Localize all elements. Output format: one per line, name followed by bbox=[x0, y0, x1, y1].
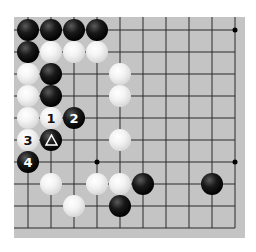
black-stone bbox=[201, 173, 223, 195]
black-stone: 4 bbox=[17, 151, 39, 173]
white-stone bbox=[109, 85, 131, 107]
black-stone: 2 bbox=[63, 107, 85, 129]
white-stone bbox=[63, 41, 85, 63]
white-stone bbox=[17, 63, 39, 85]
black-stone bbox=[40, 63, 62, 85]
black-stone bbox=[109, 195, 131, 217]
black-stone bbox=[17, 41, 39, 63]
white-stone bbox=[86, 173, 108, 195]
white-stone bbox=[17, 107, 39, 129]
move-number: 3 bbox=[23, 133, 32, 148]
move-number: 4 bbox=[23, 155, 32, 170]
black-stone bbox=[40, 85, 62, 107]
white-stone bbox=[109, 173, 131, 195]
white-stone bbox=[63, 195, 85, 217]
white-stone: 3 bbox=[17, 129, 39, 151]
black-stone bbox=[63, 19, 85, 41]
black-stone bbox=[40, 129, 62, 151]
black-stone bbox=[132, 173, 154, 195]
black-stone bbox=[17, 19, 39, 41]
white-stone bbox=[40, 41, 62, 63]
white-stone bbox=[40, 173, 62, 195]
star-point bbox=[233, 28, 238, 33]
triangle-icon bbox=[45, 134, 58, 146]
white-stone bbox=[109, 63, 131, 85]
black-stone bbox=[40, 19, 62, 41]
black-stone bbox=[86, 19, 108, 41]
white-stone: 1 bbox=[40, 107, 62, 129]
star-point bbox=[233, 160, 238, 165]
white-stone bbox=[17, 85, 39, 107]
move-number: 2 bbox=[69, 111, 78, 126]
white-stone bbox=[86, 41, 108, 63]
move-number: 1 bbox=[46, 111, 55, 126]
star-point bbox=[95, 160, 100, 165]
white-stone bbox=[109, 129, 131, 151]
